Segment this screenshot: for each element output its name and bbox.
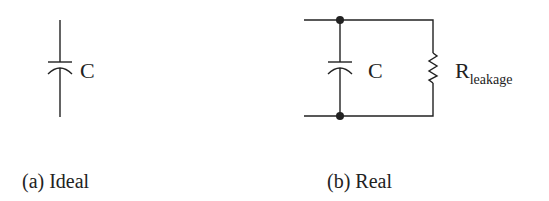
circuit-diagram: C C Rleakage (a) Ideal (b) Real (0, 0, 549, 201)
top-junction-node-icon (336, 16, 344, 24)
bottom-wire (304, 83, 433, 116)
figure: C C Rleakage (a) Ideal (b) Real (0, 0, 549, 201)
real-capacitor-icon (328, 20, 352, 116)
bottom-junction-node-icon (336, 112, 344, 120)
ideal-capacitor-icon (48, 20, 72, 117)
top-wire (304, 20, 433, 53)
resistor-label: Rleakage (455, 58, 512, 87)
caption-real: (b) Real (327, 170, 392, 193)
resistor-icon (429, 53, 437, 83)
caption-ideal: (a) Ideal (22, 170, 90, 193)
resistor-label-subscript: leakage (470, 72, 513, 87)
resistor-label-main: R (455, 58, 470, 83)
real-capacitor-label: C (368, 58, 383, 83)
ideal-capacitor-label: C (80, 58, 95, 83)
